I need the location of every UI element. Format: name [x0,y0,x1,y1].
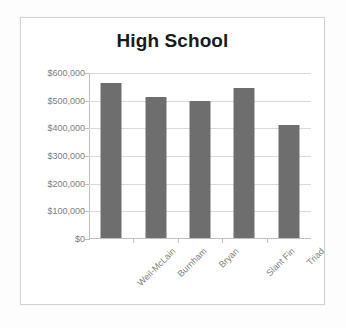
bar[interactable] [189,101,210,239]
y-tick-label: $500,000 [47,96,85,106]
chart-title: High School [21,30,324,52]
y-tick-label: $100,000 [47,206,85,216]
plot-area [89,73,311,239]
x-tick-label: Burnham [176,246,209,279]
x-axis-labels: Weil-McLainBurnhamBryanSlant FinTriad [89,242,311,302]
bar-slot [133,73,177,239]
bar-slot [89,73,133,239]
bar[interactable] [145,97,166,239]
bar-slot [267,73,311,239]
y-tick-label: $200,000 [47,179,85,189]
bar[interactable] [278,125,299,239]
x-axis-line [89,238,311,239]
x-tick-label: Slant Fin [265,246,297,278]
chart-frame: High School $0$100,000$200,000$300,000$4… [20,17,325,305]
bar-slot [222,73,266,239]
bar[interactable] [234,88,255,239]
y-tick-label: $600,000 [47,68,85,78]
x-tick-label: Triad [304,246,325,267]
bar[interactable] [101,83,122,239]
y-axis-labels: $0$100,000$200,000$300,000$400,000$500,0… [21,73,85,240]
y-tick-label: $0 [75,234,85,244]
x-tick-label: Weil-McLain [135,246,177,288]
y-tick-label: $300,000 [47,151,85,161]
x-tick-label: Bryan [217,246,241,270]
y-tick-label: $400,000 [47,123,85,133]
bar-slot [178,73,222,239]
chart-screenshot: High School $0$100,000$200,000$300,000$4… [0,0,346,328]
